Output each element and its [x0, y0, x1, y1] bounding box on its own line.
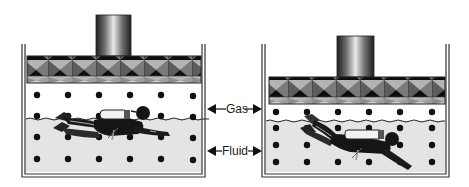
left-piston-plate — [27, 56, 201, 83]
right-piston-plate — [269, 77, 445, 104]
right-gas-molecules — [273, 109, 435, 115]
right-panel — [262, 36, 449, 177]
right-piston-rod — [337, 36, 374, 77]
fluid-label: Fluid — [222, 144, 248, 158]
diagram-canvas — [0, 0, 469, 187]
left-panel — [22, 15, 209, 177]
gas-label: Gas — [226, 102, 248, 116]
left-piston-rod — [96, 15, 131, 56]
